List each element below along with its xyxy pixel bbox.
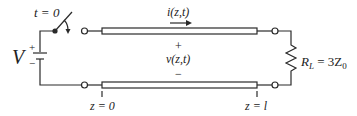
terminal-top-left	[82, 28, 88, 34]
source-wire	[40, 31, 81, 85]
voltage-minus: −	[175, 67, 182, 81]
current-label: i(z,t)	[167, 5, 189, 19]
switch-label: t = 0	[34, 5, 60, 20]
source-plus: +	[29, 41, 35, 53]
load-label: RL = 3Z0	[300, 54, 347, 71]
switch-arrow	[64, 20, 68, 30]
switch-arrow-head	[66, 29, 71, 34]
switch-pivot	[52, 28, 57, 33]
terminal-bottom-right	[272, 82, 278, 88]
current-arrow-head	[186, 20, 192, 26]
circuit-diagram: t = 0 V + − i(z,t) + v(z,t) − z = 0 z = …	[0, 0, 357, 116]
zl-label: z = l	[244, 99, 268, 113]
voltage-label: v(z,t)	[166, 52, 190, 66]
source-minus: −	[29, 57, 35, 69]
line-conductor-top	[102, 28, 257, 34]
terminal-top-right	[272, 28, 278, 34]
load-resistor	[278, 31, 296, 85]
line-conductor-bottom	[102, 82, 257, 88]
z0-label: z = 0	[89, 99, 115, 113]
voltage-plus: +	[175, 39, 182, 53]
source-label: V	[12, 46, 27, 68]
terminal-bottom-left	[82, 82, 88, 88]
